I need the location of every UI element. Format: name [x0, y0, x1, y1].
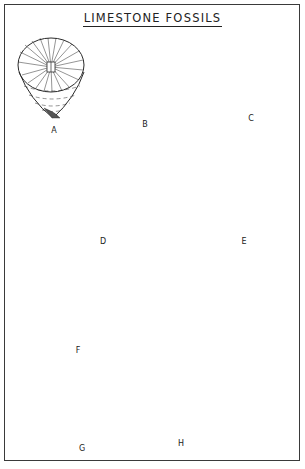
- figure-label-a: A: [48, 126, 60, 135]
- figure-label-b: B: [139, 120, 151, 129]
- figure-label-c: C: [245, 114, 257, 123]
- figure-label-f: F: [72, 346, 84, 355]
- figure-label-g: G: [76, 444, 88, 453]
- fossil-illustrations: [0, 0, 305, 469]
- figure-label-h: H: [175, 439, 187, 448]
- figure-label-d: D: [97, 237, 109, 246]
- figure-label-e: E: [238, 237, 250, 246]
- fossil-a-illustration: [18, 38, 84, 118]
